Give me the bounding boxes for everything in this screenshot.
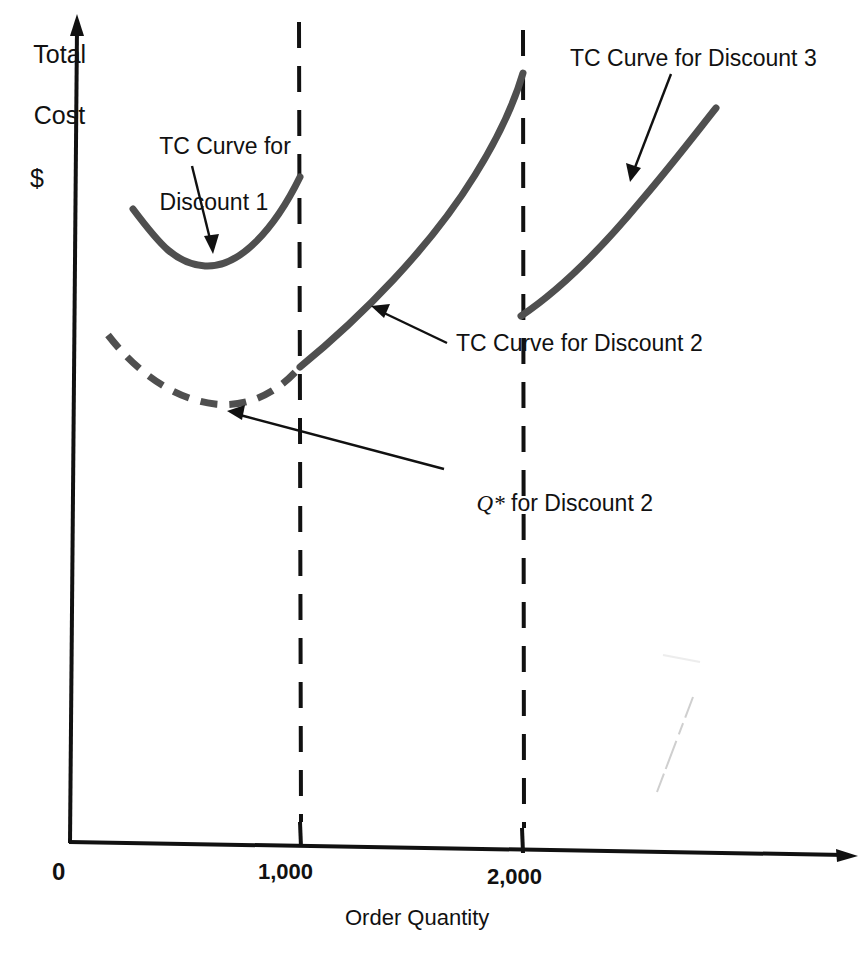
x-axis-line xyxy=(69,842,845,855)
chart-figure: Total Cost $ Order Quantity 0 1,000 2,00… xyxy=(0,0,864,956)
discount-2-curve xyxy=(300,73,523,367)
annotation-discount-1: TC Curve for Discount 1 xyxy=(134,104,291,244)
qstar-symbol: Q* xyxy=(477,491,505,516)
scan-artifact xyxy=(657,655,700,792)
leader-arrow-discount-2 xyxy=(371,304,390,318)
x-tick-label-1000: 1,000 xyxy=(258,859,313,886)
y-axis-title-line2: Cost xyxy=(34,101,85,129)
y-axis-title-line1: Total xyxy=(33,40,86,68)
x-axis-arrow xyxy=(836,849,858,862)
leader-qstar xyxy=(240,415,444,469)
annotation-discount-1-line1: TC Curve for xyxy=(159,133,291,159)
x-tick-label-origin: 0 xyxy=(52,857,65,886)
tick-mark-1000 xyxy=(300,822,301,847)
leader-discount-2 xyxy=(382,312,447,343)
discount-3-curve xyxy=(521,108,716,316)
annotation-discount-1-line2: Discount 1 xyxy=(160,189,269,215)
qstar-rest: for Discount 2 xyxy=(505,490,653,516)
x-tick-label-2000: 2,000 xyxy=(487,864,542,891)
y-axis-unit: $ xyxy=(6,163,68,194)
leader-arrow-discount-3 xyxy=(626,163,641,182)
y-axis-title: Total Cost $ xyxy=(6,8,86,254)
discount-2-dashed-curve xyxy=(108,335,300,405)
breakpoint-line-1000 xyxy=(299,22,301,822)
tick-mark-2000 xyxy=(522,828,523,853)
annotation-qstar: Q* for Discount 2 xyxy=(451,461,653,546)
annotation-discount-3: TC Curve for Discount 3 xyxy=(570,44,817,72)
x-axis-title: Order Quantity xyxy=(345,905,489,932)
annotation-discount-2: TC Curve for Discount 2 xyxy=(456,329,703,357)
leader-discount-3 xyxy=(634,74,671,170)
breakpoint-line-2000 xyxy=(523,30,524,828)
chart-canvas xyxy=(0,0,864,956)
